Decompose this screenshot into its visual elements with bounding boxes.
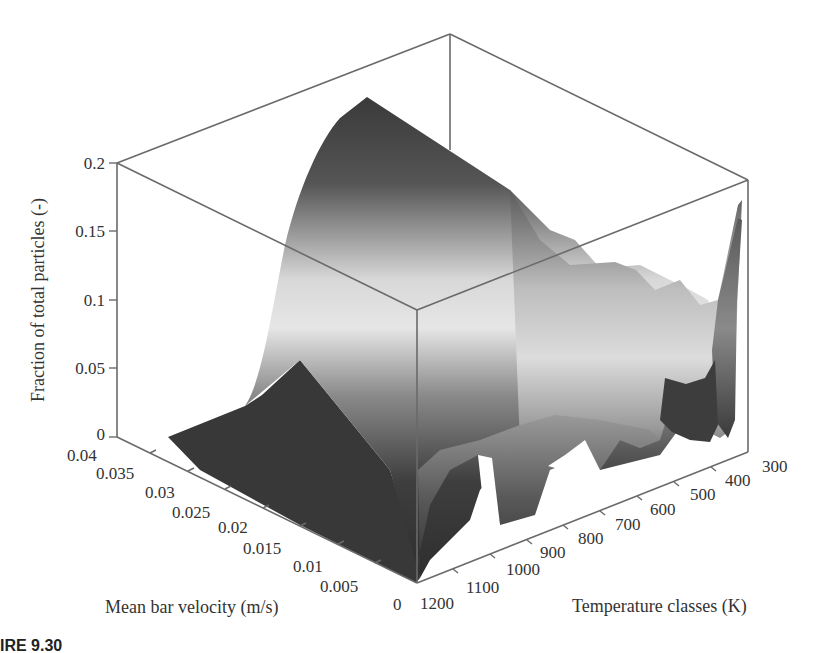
figure-caption: IRE 9.30 [0, 637, 62, 653]
y-tick-label: 1000 [506, 560, 540, 579]
z-tick-label: 0.1 [84, 291, 105, 310]
surface-chart: 0.2 0.15 0.1 0.05 0 Fraction of total pa… [0, 0, 826, 653]
z-tick-label: 0.2 [84, 154, 105, 173]
y-tick-label: 500 [690, 485, 716, 504]
y-axis-title: Temperature classes (K) [572, 596, 747, 617]
x-tick-label: 0.01 [293, 557, 323, 576]
y-tick-label: 800 [578, 529, 604, 548]
y-tick-label: 400 [725, 471, 751, 490]
z-axis: 0.2 0.15 0.1 0.05 0 Fraction of total pa… [28, 154, 117, 444]
z-tick-label: 0.05 [75, 359, 105, 378]
y-tick-label: 900 [540, 543, 566, 562]
x-tick-label: 0.035 [96, 464, 134, 483]
y-tick-label: 700 [615, 515, 641, 534]
x-axis-title: Mean bar velocity (m/s) [105, 597, 278, 618]
x-tick-label: 0.005 [320, 577, 358, 596]
x-tick-label: 0.03 [145, 483, 175, 502]
x-tick-label: 0.04 [67, 446, 97, 465]
y-tick-label: 1100 [466, 578, 499, 597]
x-tick-label: 0.015 [243, 539, 281, 558]
y-tick-label: 600 [650, 500, 676, 519]
y-tick-label: 1200 [420, 594, 454, 613]
z-tick-label: 0.15 [75, 222, 105, 241]
y-tick-label: 300 [762, 457, 788, 476]
z-axis-title: Fraction of total particles (-) [28, 198, 49, 402]
x-tick-label: 0.02 [218, 518, 248, 537]
z-tick-label: 0 [97, 425, 106, 444]
x-tick-label: 0.025 [172, 503, 210, 522]
x-tick-label: 0 [393, 595, 402, 614]
